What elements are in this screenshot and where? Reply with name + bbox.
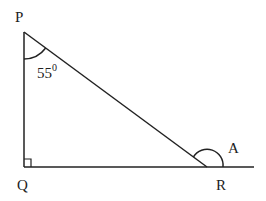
- triangle-figure: [0, 0, 266, 201]
- angle-p-value: 55: [37, 65, 52, 81]
- angle-p-arc: [24, 48, 46, 59]
- triangle-diagram: P 550 Q R A: [0, 0, 266, 201]
- right-angle-marker: [24, 159, 31, 167]
- degree-symbol: 0: [52, 62, 57, 73]
- angle-p-label: 550: [37, 66, 57, 81]
- side-pr: [24, 32, 207, 167]
- exterior-angle-arc: [193, 149, 223, 167]
- vertex-label-q: Q: [17, 178, 28, 193]
- exterior-angle-label: A: [228, 141, 239, 156]
- vertex-label-r: R: [216, 178, 226, 193]
- vertex-label-p: P: [15, 10, 23, 25]
